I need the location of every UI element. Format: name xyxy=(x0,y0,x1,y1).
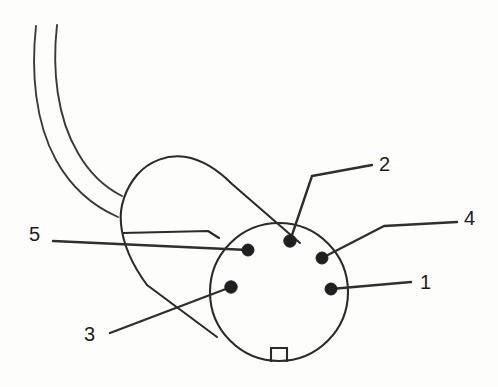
pin-dot-4 xyxy=(316,252,328,264)
pin-dots-group xyxy=(225,235,337,295)
body-bottom-edge xyxy=(147,285,217,337)
pin-label-2: 2 xyxy=(379,154,390,174)
leader-line-5 xyxy=(53,241,248,250)
pin-dot-2 xyxy=(284,235,296,247)
leader-line-2 xyxy=(290,165,372,241)
pin-dot-1 xyxy=(325,283,337,295)
connector-diagram: 1 2 3 4 5 xyxy=(0,0,498,387)
cable-strand-outer xyxy=(34,26,118,217)
leader-line-1 xyxy=(331,282,411,289)
pin-label-3: 3 xyxy=(84,324,95,344)
leader-line-4 xyxy=(322,222,457,258)
pin-label-5: 5 xyxy=(29,224,40,244)
connector-drawing xyxy=(0,0,498,387)
connector-body-group xyxy=(121,156,300,337)
pin-dot-5 xyxy=(242,244,254,256)
pin-dot-3 xyxy=(225,281,237,293)
cable-group xyxy=(34,25,122,217)
cable-strand-inner xyxy=(55,25,122,196)
body-top-edge xyxy=(137,156,300,243)
pin-label-1: 1 xyxy=(420,272,431,292)
body-back-arc xyxy=(121,175,147,285)
body-collar-edge xyxy=(123,231,219,238)
pin-label-4: 4 xyxy=(464,208,475,228)
